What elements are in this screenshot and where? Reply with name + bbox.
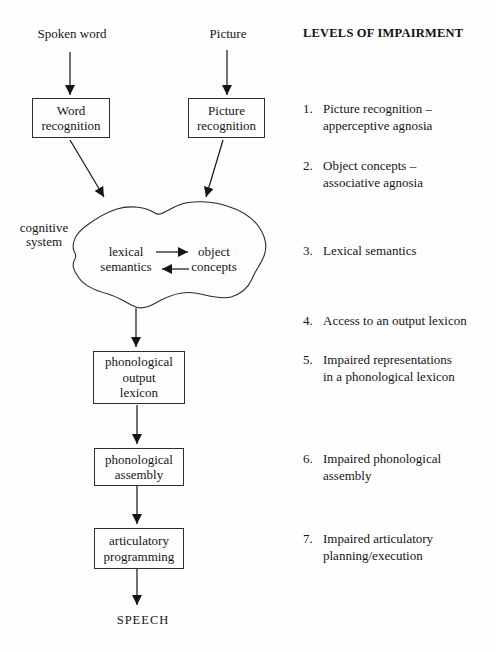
cognitive-system-label: cognitive system [12,221,76,249]
impairment-item-2: 2. Object concepts – associative agnosia [303,158,487,191]
impairment-number: 5. [303,352,317,385]
impairment-text: Object concepts – associative agnosia [323,158,423,191]
impairment-number: 1. [303,101,317,134]
articulatory-programming-box: articulatory programming [94,528,184,569]
impairment-item-1: 1. Picture recognition – apperceptive ag… [303,101,487,134]
impairment-text: Picture recognition – apperceptive agnos… [323,101,432,134]
impairment-item-3: 3. Lexical semantics [303,243,487,260]
impairment-text: Access to an output lexicon [323,313,467,330]
impairment-item-6: 6. Impaired phonological assembly [303,451,487,484]
speech-label: SPEECH [112,613,174,627]
spoken-word-label: Spoken word [30,27,114,41]
lexical-semantics-label: lexical semantics [96,245,156,274]
impairment-number: 4. [303,313,317,330]
impairment-text: Impaired articulatory planning/execution [323,531,433,564]
impairment-text: Impaired representations in a phonologic… [323,352,455,385]
object-concepts-label: object concepts [184,245,244,274]
phonological-output-lexicon-box: phonological output lexicon [93,351,185,404]
impairment-item-7: 7. Impaired articulatory planning/execut… [303,531,487,564]
impairment-number: 6. [303,451,317,484]
picture-label: Picture [186,27,270,41]
impairment-number: 7. [303,531,317,564]
picture-recognition-box: Picture recognition [188,98,265,138]
impairment-number: 3. [303,243,317,260]
levels-of-impairment-heading: LEVELS OF IMPAIRMENT [303,26,463,41]
arrow-wordrecognition-to-blob [70,140,104,197]
impairment-item-4: 4. Access to an output lexicon [303,313,487,330]
figure-canvas: Spoken word Picture Word recognition Pic… [0,0,496,652]
impairment-number: 2. [303,158,317,191]
arrow-picturerecognition-to-blob [206,140,223,197]
phonological-assembly-box: phonological assembly [94,448,184,486]
word-recognition-box: Word recognition [32,98,110,138]
impairment-item-5: 5. Impaired representations in a phonolo… [303,352,487,385]
impairment-text: Lexical semantics [323,243,417,260]
impairment-text: Impaired phonological assembly [323,451,441,484]
